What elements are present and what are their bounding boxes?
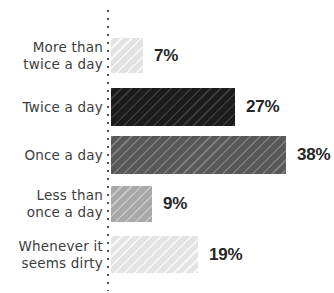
bar — [111, 236, 198, 273]
category-label: Whenever it seems dirty — [0, 236, 103, 273]
category-label: Less than once a day — [0, 186, 103, 222]
value-label: 38% — [297, 136, 330, 174]
value-label: 9% — [163, 186, 187, 222]
category-label: Twice a day — [0, 88, 103, 126]
category-label: Once a day — [0, 136, 103, 174]
value-label: 19% — [209, 236, 242, 273]
bar — [111, 38, 143, 73]
axis-dotted-line — [107, 10, 109, 291]
bar — [111, 136, 286, 174]
bar — [111, 88, 235, 126]
bar-chart: More than twice a day7%Twice a day27%Onc… — [0, 0, 334, 293]
value-label: 7% — [154, 38, 178, 73]
category-label: More than twice a day — [0, 38, 103, 73]
bar — [111, 186, 152, 222]
value-label: 27% — [246, 88, 279, 126]
